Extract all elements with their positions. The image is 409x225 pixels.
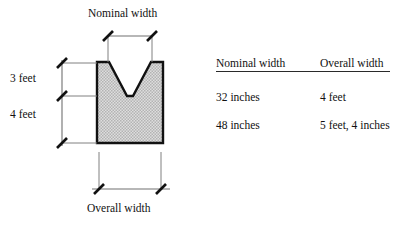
spacer-cell-right (320, 72, 390, 92)
nominal-width-label: Nominal width (88, 8, 157, 20)
table-spacer-row (216, 72, 390, 92)
channel-body-fill (97, 62, 163, 143)
height-dimension-stack (57, 58, 97, 148)
table-row: 32 inches 4 feet (216, 91, 390, 119)
table-body: 32 inches 4 feet 48 inches 5 feet, 4 inc… (216, 72, 390, 148)
spacer-cell-left (216, 72, 320, 92)
cell-nominal-width: 32 inches (216, 91, 320, 119)
nominal-width-dimension (103, 31, 157, 62)
overall-width-label: Overall width (87, 203, 151, 215)
height-lower-label: 4 feet (10, 109, 36, 121)
height-upper-label: 3 feet (10, 73, 36, 85)
table-row: 48 inches 5 feet, 4 inches (216, 119, 390, 147)
width-reference-table-wrapper: Nominal width Overall width 32 inches 4 … (216, 57, 390, 147)
column-header-overall-width: Overall width (320, 57, 390, 72)
cell-nominal-width: 48 inches (216, 119, 320, 147)
overall-width-dimension (92, 152, 170, 194)
width-reference-table: Nominal width Overall width 32 inches 4 … (216, 57, 390, 147)
u-channel-shape (97, 62, 163, 143)
cell-overall-width: 4 feet (320, 91, 390, 119)
table-header: Nominal width Overall width (216, 57, 390, 72)
column-header-nominal-width: Nominal width (216, 57, 320, 72)
table-header-row: Nominal width Overall width (216, 57, 390, 72)
diagram-page: Nominal width Overall width 3 feet 4 fee… (0, 0, 409, 225)
cell-overall-width: 5 feet, 4 inches (320, 119, 390, 147)
